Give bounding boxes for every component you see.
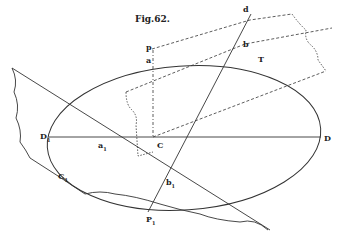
geometry-diagram — [0, 0, 339, 235]
dotted-boundary-right — [292, 14, 326, 71]
dotted-boundary-left — [126, 92, 153, 156]
label-d1: D1 — [40, 132, 50, 143]
dashed-plane-inner — [126, 28, 332, 92]
label-d: d — [243, 5, 249, 13]
label-p: p — [146, 43, 152, 51]
line-d-p1 — [148, 14, 251, 212]
label-p1: P1 — [146, 215, 156, 226]
label-b: b — [243, 40, 249, 48]
label-a: a — [146, 56, 151, 64]
label-t: T — [258, 55, 264, 63]
wavy-boundary-left — [12, 68, 58, 176]
dashed-plane — [152, 14, 292, 49]
label-c: C — [157, 141, 163, 149]
label-D: D — [324, 134, 331, 142]
label-b1: b1 — [166, 178, 175, 189]
label-a1: a1 — [98, 141, 107, 152]
ellipse — [42, 57, 325, 220]
dashed-cb — [153, 71, 326, 137]
diagonal-line — [12, 68, 270, 230]
label-c1: C1 — [58, 172, 68, 183]
